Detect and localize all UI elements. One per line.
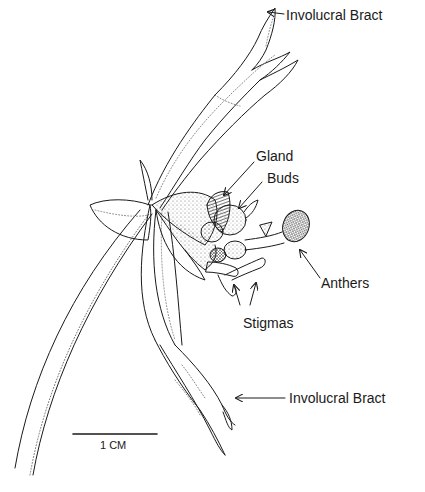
scale-bar-label: 1 CM	[100, 440, 126, 451]
stem	[15, 210, 152, 475]
plant-drawing	[0, 0, 425, 492]
botanical-diagram: Involucral Bract Gland Buds Anthers Stig…	[0, 0, 425, 492]
label-involucral-bract-bottom: Involucral Bract	[289, 391, 385, 405]
lower-involucral-bract	[155, 340, 235, 455]
label-gland: Gland	[256, 149, 293, 163]
label-involucral-bract-top: Involucral Bract	[286, 8, 382, 22]
label-stigmas: Stigmas	[243, 316, 294, 330]
anther-structure	[245, 207, 314, 250]
label-buds: Buds	[267, 171, 299, 185]
left-bract	[90, 160, 152, 240]
label-arrows	[224, 12, 320, 398]
label-anthers: Anthers	[321, 276, 369, 290]
